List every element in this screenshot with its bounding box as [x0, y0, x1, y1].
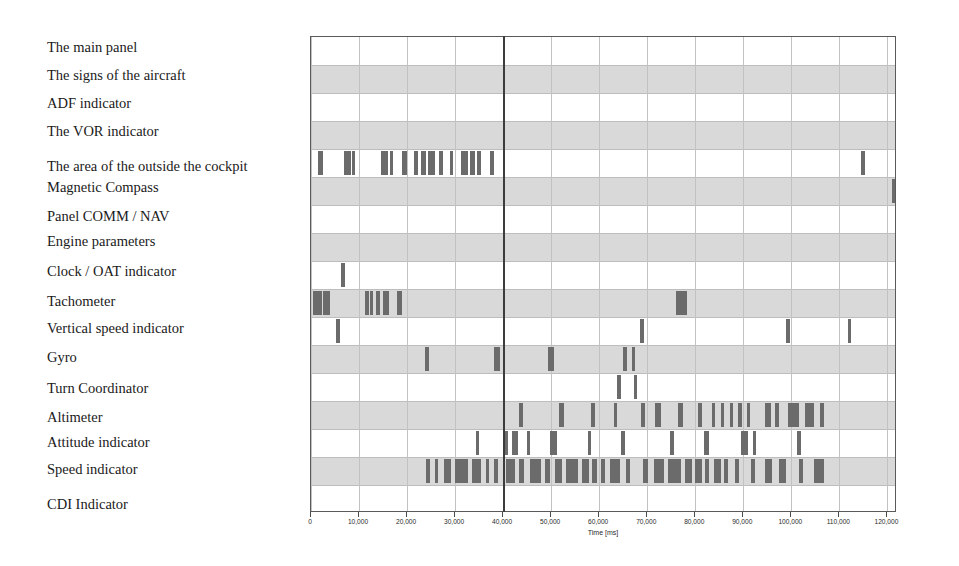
time-cursor-line[interactable] [503, 36, 505, 512]
event-mark [730, 403, 733, 427]
event-mark [506, 459, 516, 483]
event-mark [341, 263, 345, 287]
event-mark [655, 403, 661, 427]
event-mark [439, 151, 443, 175]
event-mark [450, 151, 453, 175]
event-mark [582, 459, 589, 483]
event-mark [678, 403, 682, 427]
event-mark [712, 403, 715, 427]
category-label: Vertical speed indicator [47, 321, 184, 336]
axis-tick [742, 512, 743, 517]
event-mark [390, 151, 393, 175]
event-mark [550, 431, 557, 455]
axis-tick [502, 512, 503, 517]
event-mark [741, 431, 748, 455]
axis-tick-label: 0 [308, 518, 312, 525]
event-mark [634, 375, 637, 399]
event-mark [641, 403, 645, 427]
category-label: The main panel [47, 40, 137, 55]
event-mark [621, 431, 625, 455]
event-mark [444, 459, 452, 483]
event-mark [601, 459, 605, 483]
axis-tick-label: 70,000 [636, 518, 656, 525]
event-mark [486, 459, 489, 483]
event-mark [461, 151, 468, 175]
axis-tick-label: 80,000 [684, 518, 704, 525]
axis-tick [358, 512, 359, 517]
event-mark [519, 403, 523, 427]
event-mark [545, 459, 549, 483]
event-mark [765, 459, 772, 483]
category-label: Panel COMM / NAV [47, 209, 170, 224]
event-mark [381, 151, 388, 175]
event-mark [747, 403, 750, 427]
event-mark [428, 151, 435, 175]
event-mark [490, 151, 494, 175]
event-mark [610, 459, 620, 483]
event-mark [779, 459, 786, 483]
event-mark [588, 431, 592, 455]
event-mark [738, 403, 741, 427]
event-mark [668, 459, 680, 483]
event-mark [383, 291, 389, 315]
event-mark [494, 347, 499, 371]
event-mark [519, 459, 523, 483]
event-mark [861, 151, 865, 175]
scanpath-timeline-figure: The main panelThe signs of the aircraftA… [0, 0, 959, 566]
event-mark [788, 403, 799, 427]
event-mark [336, 319, 340, 343]
event-mark [402, 151, 406, 175]
event-mark [397, 291, 401, 315]
axis-tick-label: 90,000 [732, 518, 752, 525]
category-label: Tachometer [47, 294, 115, 309]
category-label: Speed indicator [47, 462, 138, 477]
axis-tick-label: 10,000 [348, 518, 368, 525]
event-mark [327, 291, 330, 315]
event-mark [751, 459, 755, 483]
event-mark [530, 459, 541, 483]
event-mark [640, 319, 644, 343]
event-mark [670, 431, 673, 455]
event-mark [370, 291, 373, 315]
event-mark [705, 459, 709, 483]
axis-tick-label: 50,000 [540, 518, 560, 525]
axis-tick [550, 512, 551, 517]
event-mark [425, 347, 428, 371]
event-mark [614, 403, 618, 427]
axis-tick [838, 512, 839, 517]
event-mark [848, 319, 851, 343]
axis-tick-label: 60,000 [588, 518, 608, 525]
axis-tick [454, 512, 455, 517]
event-mark [414, 151, 417, 175]
event-mark [617, 375, 620, 399]
event-mark [753, 431, 756, 455]
category-label: CDI Indicator [47, 497, 128, 512]
event-mark [548, 347, 553, 371]
plot-area [310, 36, 896, 512]
event-mark [435, 459, 438, 483]
category-label: The area of the outside the cockpit [47, 159, 248, 174]
event-mark [626, 459, 630, 483]
category-label: Attitude indicator [47, 435, 150, 450]
event-mark [344, 151, 351, 175]
axis-tick [694, 512, 695, 517]
event-mark [735, 459, 739, 483]
event-mark [476, 431, 479, 455]
event-mark [555, 459, 562, 483]
event-mark [775, 403, 779, 427]
event-mark [470, 151, 474, 175]
event-mark [494, 459, 498, 483]
category-label: Engine parameters [47, 234, 155, 249]
axis-tick [790, 512, 791, 517]
event-mark [676, 291, 687, 315]
axis-tick-label: 120,000 [874, 518, 898, 525]
event-mark [704, 431, 708, 455]
event-mark [566, 459, 578, 483]
event-mark [654, 459, 664, 483]
event-mark [797, 431, 801, 455]
event-mark [318, 151, 322, 175]
event-mark [591, 403, 595, 427]
category-label: Gyro [47, 350, 77, 365]
event-mark [376, 291, 380, 315]
event-mark [786, 319, 790, 343]
